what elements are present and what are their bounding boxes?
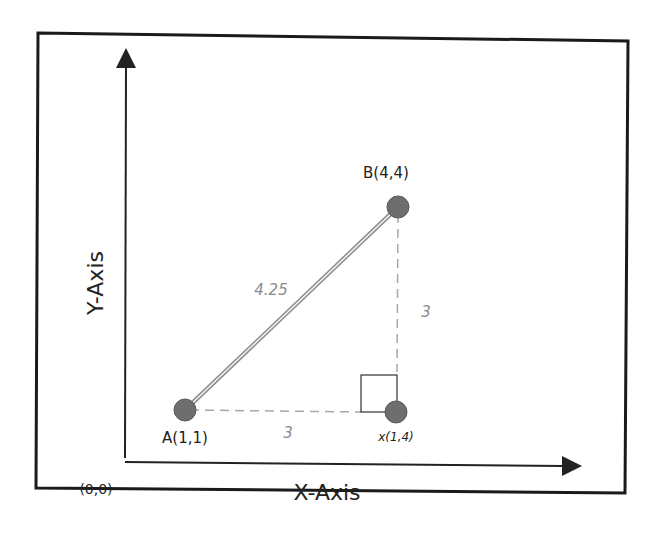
x-axis-label: X-Axis bbox=[293, 480, 360, 505]
point-x bbox=[385, 401, 407, 423]
point-x-label: x(1,4) bbox=[377, 430, 414, 444]
horizontal-leg-length-label: 3 bbox=[283, 424, 293, 442]
distance-diagram: B(4,4) A(1,1) x(1,4) 4.25 3 3 (0,0) X-Ax… bbox=[0, 0, 654, 549]
y-axis-arrow-icon bbox=[116, 48, 136, 68]
origin-label: (0,0) bbox=[79, 481, 112, 497]
point-b-label: B(4,4) bbox=[363, 164, 409, 182]
vertical-leg-length-label: 3 bbox=[421, 303, 431, 321]
x-axis-arrow-icon bbox=[562, 456, 582, 476]
point-b bbox=[387, 196, 409, 218]
point-a bbox=[174, 399, 196, 421]
y-axis-label: Y-Axis bbox=[83, 251, 108, 316]
horizontal-leg-dashed bbox=[190, 410, 362, 412]
y-axis bbox=[116, 48, 136, 458]
hypotenuse-length-label: 4.25 bbox=[254, 281, 287, 299]
point-a-label: A(1,1) bbox=[162, 429, 208, 447]
vertical-leg-dashed bbox=[397, 214, 398, 372]
hypotenuse-line bbox=[185, 207, 398, 410]
x-axis bbox=[125, 456, 582, 476]
